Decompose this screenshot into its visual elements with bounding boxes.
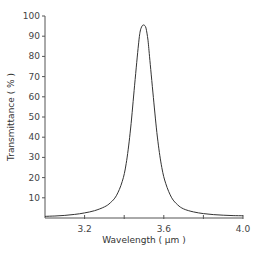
x-tick-label: 3.6 bbox=[157, 224, 172, 234]
x-tick-label: 4.0 bbox=[236, 224, 251, 234]
y-tick-label: 70 bbox=[29, 72, 41, 82]
y-axis: 102030405060708090100 bbox=[23, 11, 45, 218]
y-axis-label: Transmittance ( % ) bbox=[6, 73, 16, 162]
x-axis-label: Wavelength ( µm ) bbox=[102, 235, 186, 245]
y-tick-label: 30 bbox=[29, 152, 41, 162]
transmittance-curve bbox=[45, 25, 243, 216]
x-tick-label: 3.2 bbox=[77, 224, 91, 234]
y-tick-label: 90 bbox=[29, 31, 41, 41]
y-tick-label: 40 bbox=[29, 132, 41, 142]
y-tick-label: 80 bbox=[29, 51, 41, 61]
y-tick-label: 50 bbox=[29, 112, 41, 122]
transmittance-chart: 102030405060708090100 3.23.64.0 Transmit… bbox=[0, 0, 256, 254]
x-axis: 3.23.64.0 bbox=[45, 215, 250, 234]
y-tick-label: 20 bbox=[29, 173, 41, 183]
y-tick-label: 100 bbox=[23, 11, 40, 21]
y-tick-label: 10 bbox=[29, 193, 41, 203]
y-tick-label: 60 bbox=[29, 92, 41, 102]
